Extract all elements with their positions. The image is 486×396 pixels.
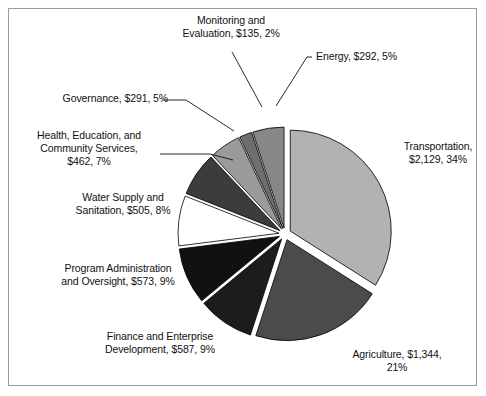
slice-label-health-education-community-services: Health, Education, and Community Service… — [14, 129, 164, 168]
slice-label-finance-and-enterprise-development: Finance and Enterprise Development, $587… — [80, 330, 240, 356]
leader-line-energy — [276, 57, 312, 106]
slice-label-governance: Governance, $291, 5% — [48, 92, 168, 105]
slice-label-water-supply-and-sanitation: Water Supply and Sanitation, $505, 8% — [58, 191, 188, 217]
slice-label-agriculture: Agriculture, $1,344, 21% — [322, 348, 472, 374]
slice-label-energy: Energy, $292, 5% — [316, 50, 476, 63]
slice-label-program-administration-and-oversight: Program Administration and Oversight, $5… — [38, 262, 198, 288]
slice-label-transportation: Transportation, $2,129, 34% — [392, 140, 484, 166]
pie-chart-figure: Monitoring and Evaluation, $135, 2% Ener… — [0, 0, 486, 396]
pie-slices-group — [178, 127, 391, 341]
leader-line-monitoring-and-evaluation — [232, 52, 262, 107]
leader-line-governance — [163, 100, 234, 131]
slice-label-monitoring-and-evaluation: Monitoring and Evaluation, $135, 2% — [156, 14, 306, 40]
